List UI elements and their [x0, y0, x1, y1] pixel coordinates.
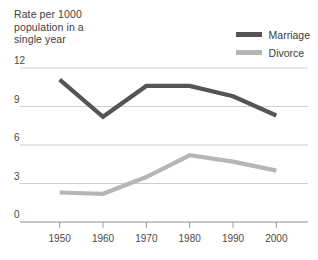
y-tick-label: 12: [14, 56, 36, 66]
x-tick-label: 1950: [40, 234, 80, 244]
data-series-lines: [60, 80, 277, 194]
y-tick-label: 3: [14, 172, 36, 182]
x-tick-label: 1990: [213, 234, 253, 244]
series-line-divorce: [60, 155, 277, 194]
x-axis-ticks: [60, 222, 277, 228]
x-tick-label: 1970: [126, 234, 166, 244]
x-tick-label: 1960: [83, 234, 123, 244]
series-line-marriage: [60, 80, 277, 117]
y-tick-label: 9: [14, 95, 36, 105]
y-tick-label: 0: [14, 210, 36, 220]
gridlines: [20, 68, 308, 222]
x-tick-label: 2000: [256, 234, 296, 244]
chart-container: Rate per 1000 population in a single yea…: [0, 0, 318, 260]
x-tick-label: 1980: [170, 234, 210, 244]
y-tick-label: 6: [14, 133, 36, 143]
plot-area: [0, 0, 318, 260]
